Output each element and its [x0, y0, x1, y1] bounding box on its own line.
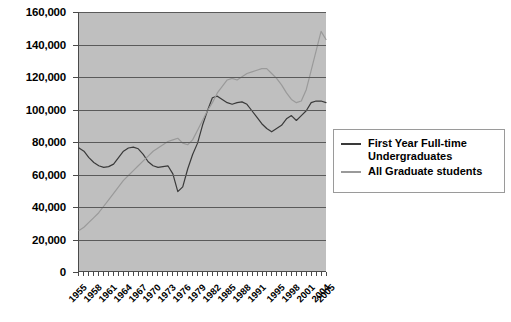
- gridline: [79, 12, 326, 13]
- x-axis-tick-mark: [266, 272, 267, 276]
- y-axis-tick-label: 100,000: [26, 104, 66, 116]
- y-axis-tick-label: 80,000: [32, 136, 66, 148]
- x-axis-tick-mark: [197, 272, 198, 276]
- x-axis-tick-mark: [306, 272, 307, 276]
- x-axis-tick-mark: [182, 272, 183, 276]
- legend-label-graduates: All Graduate students: [368, 165, 482, 178]
- x-axis-tick-mark: [222, 272, 223, 276]
- x-axis-tick-mark: [177, 272, 178, 276]
- x-axis-tick-label: 1995: [237, 282, 287, 322]
- chart-screenshot: 160,000140,000120,000100,00080,00060,000…: [0, 0, 511, 322]
- x-axis-tick-label: 2005: [287, 282, 337, 322]
- chart-legend: First Year Full-timeUndergraduates All G…: [333, 129, 505, 193]
- x-axis-tick-mark: [232, 272, 233, 276]
- x-axis-tick-mark: [78, 272, 79, 276]
- y-axis-tick-label: 140,000: [26, 39, 66, 51]
- x-axis-tick-mark: [262, 272, 263, 276]
- x-axis-tick-mark: [247, 272, 248, 276]
- gridline: [79, 77, 326, 78]
- x-axis-tick-mark: [118, 272, 119, 276]
- x-axis-tick-label: 1988: [202, 282, 252, 322]
- plot-area: [78, 12, 326, 272]
- x-axis-tick-mark: [271, 272, 272, 276]
- x-axis-tick-label: 1970: [113, 282, 163, 322]
- x-axis-tick-mark: [133, 272, 134, 276]
- x-axis-tick-mark: [281, 272, 282, 276]
- legend-item-graduates: All Graduate students: [340, 165, 498, 178]
- x-axis-tick-label: 2001: [267, 282, 317, 322]
- gridline: [79, 142, 326, 143]
- x-axis-tick-mark: [103, 272, 104, 276]
- x-axis-tick-label: 2004: [282, 282, 332, 322]
- x-axis-tick-label: 1973: [128, 282, 178, 322]
- x-axis-tick-mark: [128, 272, 129, 276]
- x-axis-tick-mark: [321, 272, 322, 276]
- x-axis-tick-mark: [192, 272, 193, 276]
- x-axis-tick-label: 1998: [252, 282, 302, 322]
- x-axis-tick-mark: [138, 272, 139, 276]
- gridline: [79, 45, 326, 46]
- x-axis-tick-label: 1958: [54, 282, 104, 322]
- x-axis-tick-label: 1964: [83, 282, 133, 322]
- x-axis-tick-label: 1982: [173, 282, 223, 322]
- x-axis-tick-mark: [227, 272, 228, 276]
- gridline: [79, 207, 326, 208]
- x-axis-tick-mark: [88, 272, 89, 276]
- x-axis-tick-mark: [207, 272, 208, 276]
- x-axis-tick-label: 1976: [143, 282, 193, 322]
- legend-line-icon-graduates: [340, 165, 362, 178]
- x-axis-tick-mark: [147, 272, 148, 276]
- x-axis-tick-mark: [276, 272, 277, 276]
- gridline: [79, 110, 326, 111]
- y-axis-tick-label: 40,000: [32, 201, 66, 213]
- series-line-undergraduates: [79, 96, 326, 192]
- y-axis-tick-label: 60,000: [32, 169, 66, 181]
- x-axis-tick-mark: [162, 272, 163, 276]
- x-axis-tick-mark: [252, 272, 253, 276]
- x-axis-tick-mark: [83, 272, 84, 276]
- x-axis-tick-mark: [296, 272, 297, 276]
- x-axis-tick-label: 1967: [98, 282, 148, 322]
- x-axis-tick-label: 1991: [217, 282, 267, 322]
- x-axis-tick-mark: [217, 272, 218, 276]
- x-axis-tick-mark: [291, 272, 292, 276]
- x-axis-tick-mark: [237, 272, 238, 276]
- x-axis-tick-mark: [167, 272, 168, 276]
- x-axis-tick-mark: [311, 272, 312, 276]
- x-axis-tick-mark: [142, 272, 143, 276]
- x-axis-tick-label: 1955: [39, 282, 89, 322]
- y-axis: 160,000140,000120,000100,00080,00060,000…: [0, 0, 74, 284]
- x-axis-tick-mark: [242, 272, 243, 276]
- x-axis-tick-mark: [202, 272, 203, 276]
- x-axis-tick-mark: [316, 272, 317, 276]
- y-axis-tick-label: 20,000: [32, 234, 66, 246]
- x-axis-tick-mark: [113, 272, 114, 276]
- x-axis-tick-mark: [326, 272, 327, 276]
- gridline: [79, 240, 326, 241]
- x-axis-tick-mark: [152, 272, 153, 276]
- x-axis-tick-mark: [212, 272, 213, 276]
- y-axis-tick-label: 160,000: [26, 6, 66, 18]
- series-line-graduates: [79, 31, 326, 230]
- legend-label-undergraduates: First Year Full-timeUndergraduates: [368, 137, 467, 162]
- x-axis-tick-mark: [157, 272, 158, 276]
- x-axis-ticks: [78, 272, 327, 278]
- x-axis-tick-mark: [257, 272, 258, 276]
- x-axis-tick-label: 1961: [68, 282, 118, 322]
- y-axis-tick-label: 120,000: [26, 71, 66, 83]
- x-axis-tick-mark: [123, 272, 124, 276]
- x-axis-tick-mark: [301, 272, 302, 276]
- x-axis-tick-label: 1979: [158, 282, 208, 322]
- x-axis-tick-mark: [93, 272, 94, 276]
- x-axis-tick-mark: [98, 272, 99, 276]
- x-axis-tick-mark: [286, 272, 287, 276]
- x-axis-tick-mark: [108, 272, 109, 276]
- x-axis-tick-mark: [172, 272, 173, 276]
- gridline: [79, 175, 326, 176]
- legend-item-undergraduates: First Year Full-timeUndergraduates: [340, 137, 498, 162]
- y-axis-tick-label: 0: [60, 266, 66, 278]
- x-axis-tick-label: 1985: [187, 282, 237, 322]
- legend-line-icon-undergraduates: [340, 137, 362, 150]
- x-axis-tick-mark: [187, 272, 188, 276]
